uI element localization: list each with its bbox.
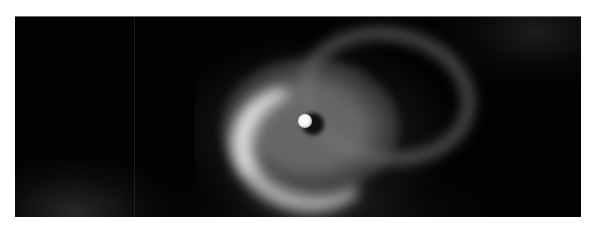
central-star	[298, 114, 312, 128]
astronomical-image: Grayscale astronomical image of a bright…	[15, 16, 581, 217]
haze-bottom-left	[15, 157, 175, 217]
